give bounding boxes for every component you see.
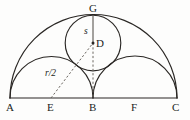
- vertex-label-E: E: [47, 102, 54, 113]
- arc-small-semicircle-BC: [93, 56, 177, 98]
- point-dot-D: [92, 42, 95, 45]
- vertex-label-D: D: [96, 38, 104, 49]
- vertex-label-F: F: [131, 102, 137, 113]
- vertex-label-A: A: [6, 102, 14, 113]
- annotation-label-s: s: [84, 27, 88, 37]
- vertex-label-B: B: [89, 102, 96, 113]
- vertex-label-C: C: [172, 102, 179, 113]
- geometry-diagram: A E B F C G D s r/2: [0, 0, 190, 120]
- vertex-label-G: G: [89, 3, 97, 14]
- annotation-label-r-over-2: r/2: [45, 69, 56, 79]
